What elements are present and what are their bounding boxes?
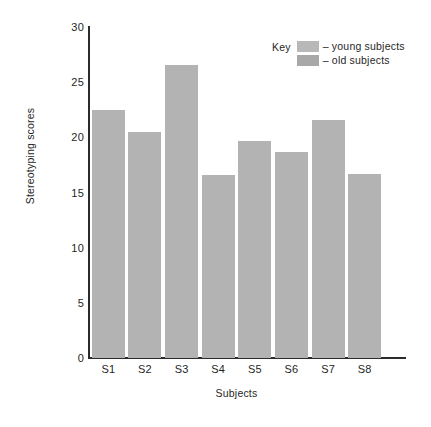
x-axis-tick-label: S4 [200,363,237,376]
x-axis-tick-label: S5 [237,363,274,376]
y-axis-tick-label: 10 [71,242,84,253]
y-axis-tick-label: 25 [71,77,84,88]
legend-swatch-icon [297,41,319,52]
legend-title: Key [272,40,291,53]
x-axis-tick-label: S7 [310,363,347,376]
y-axis-tick-label: 5 [78,297,84,308]
x-axis-tick-label: S8 [346,363,383,376]
y-axis-tick-labels: 051015202530 [40,27,84,358]
bar [92,110,125,358]
bar [348,174,381,358]
bar [238,141,271,358]
y-axis-title: Stereotyping scores [24,86,36,226]
y-axis-tick-label: 15 [71,187,84,198]
y-axis-tick-label: 30 [71,22,84,33]
bar [202,175,235,358]
x-axis-tick-labels: S1S2S3S4S5S6S7S8 [90,363,383,381]
y-axis-tick-label: 20 [71,132,84,143]
bar [275,152,308,358]
chart-legend: Key – young subjects– old subjects [272,40,405,66]
legend-entry: – young subjects [297,40,405,52]
x-axis-tick-label: S3 [163,363,200,376]
legend-label: – old subjects [323,54,390,66]
x-axis-title: Subjects [90,387,383,399]
bar [128,132,161,358]
x-axis-tick-label: S2 [127,363,164,376]
bar-series [90,27,383,358]
legend-entry: – old subjects [297,54,405,66]
legend-swatch-icon [297,55,319,66]
x-axis-tick-label: S1 [90,363,127,376]
legend-entries: – young subjects– old subjects [297,40,405,66]
y-axis-tick-label: 0 [78,353,84,364]
legend-label: – young subjects [323,40,405,52]
bar [165,65,198,358]
bar-chart: Stereotyping scores 051015202530 S1S2S3S… [0,0,431,427]
x-axis-tick-label: S6 [273,363,310,376]
bar [312,120,345,358]
